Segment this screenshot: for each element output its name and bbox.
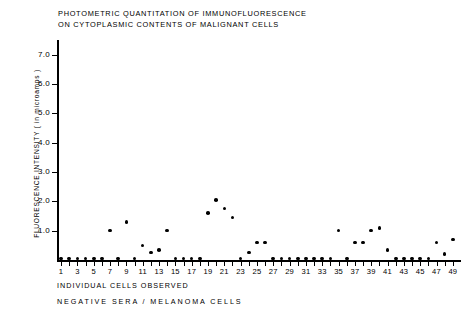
data-point [345,257,349,261]
x-tick [396,262,397,266]
y-axis-line [57,40,59,262]
y-tick: 1.0 [52,231,57,232]
x-tick-label: 37 [348,267,362,276]
x-tick [314,262,315,266]
x-tick [355,262,356,266]
data-point [443,252,447,256]
x-tick [110,262,111,266]
data-point [255,241,259,245]
x-tick-label: 45 [413,267,427,276]
data-point [451,238,455,242]
data-point [402,257,406,261]
y-tick-label: 4.0 [38,138,50,147]
x-tick [184,262,185,266]
x-tick [273,262,274,266]
x-tick [290,262,291,266]
y-tick-label: 7.0 [38,50,50,59]
x-tick-label: 13 [152,267,166,276]
x-tick [298,262,299,266]
x-tick [388,262,389,266]
x-tick-label: 9 [119,267,133,276]
data-point [247,251,251,255]
y-tick: 3.0 [52,172,57,173]
data-point [353,241,357,245]
x-tick [118,262,119,266]
x-tick [404,262,405,266]
data-point [100,257,104,261]
data-point [378,226,382,230]
y-tick-label: 3.0 [38,167,50,176]
x-tick-label: 49 [446,267,460,276]
x-tick [192,262,193,266]
y-tick: 2.0 [52,201,57,202]
x-tick-label: 43 [397,267,411,276]
plot-area: 1.02.03.04.05.06.07.0 135791113151719212… [57,40,461,262]
x-tick-label: 39 [364,267,378,276]
x-tick-label: 21 [217,267,231,276]
x-tick [437,262,438,266]
x-tick [257,262,258,266]
x-tick [102,262,103,266]
x-tick [428,262,429,266]
x-tick [77,262,78,266]
x-tick-label: 7 [103,267,117,276]
x-tick [249,262,250,266]
y-tick: 5.0 [52,113,57,114]
x-tick-label: 11 [136,267,150,276]
data-point [206,211,210,215]
x-tick-label: 1 [54,267,68,276]
x-tick [151,262,152,266]
x-tick [347,262,348,266]
chart-figure: PHOTOMETRIC QUANTITATION OF IMMUNOFLUORE… [0,0,472,322]
x-tick [61,262,62,266]
data-point [263,241,267,245]
x-tick [241,262,242,266]
data-point [198,257,202,261]
y-tick-label: 2.0 [38,196,50,205]
x-tick [208,262,209,266]
x-tick [339,262,340,266]
x-tick [232,262,233,266]
x-tick [445,262,446,266]
y-tick: 6.0 [52,84,57,85]
x-tick [175,262,176,266]
x-tick [371,262,372,266]
chart-title-line-1: PHOTOMETRIC QUANTITATION OF IMMUNOFLUORE… [58,8,398,19]
x-tick-label: 15 [168,267,182,276]
x-tick-label: 23 [234,267,248,276]
data-point [386,248,390,252]
data-point [394,257,398,261]
x-tick [143,262,144,266]
data-point [157,248,161,252]
y-tick-label: 5.0 [38,108,50,117]
data-point [108,229,112,233]
x-tick [224,262,225,266]
chart-title: PHOTOMETRIC QUANTITATION OF IMMUNOFLUORE… [58,8,398,30]
x-tick-label: 33 [315,267,329,276]
x-tick-label: 19 [201,267,215,276]
x-tick [69,262,70,266]
x-tick-label: 5 [87,267,101,276]
x-tick-label: 25 [250,267,264,276]
x-tick-label: 47 [430,267,444,276]
x-tick [281,262,282,266]
data-point [410,257,414,261]
x-tick [200,262,201,266]
x-tick [126,262,127,266]
x-tick [412,262,413,266]
y-tick-label: 1.0 [38,226,50,235]
data-point [304,257,308,261]
data-point [369,229,373,233]
x-tick [135,262,136,266]
y-tick: 4.0 [52,143,57,144]
x-tick-label: 35 [332,267,346,276]
data-point [296,257,300,261]
x-axis-caption: INDIVIDUAL CELLS OBSERVED [57,281,189,290]
x-tick [453,262,454,266]
x-tick-label: 3 [70,267,84,276]
x-tick [94,262,95,266]
x-tick [265,262,266,266]
x-tick [363,262,364,266]
x-tick [420,262,421,266]
data-point [149,251,153,255]
